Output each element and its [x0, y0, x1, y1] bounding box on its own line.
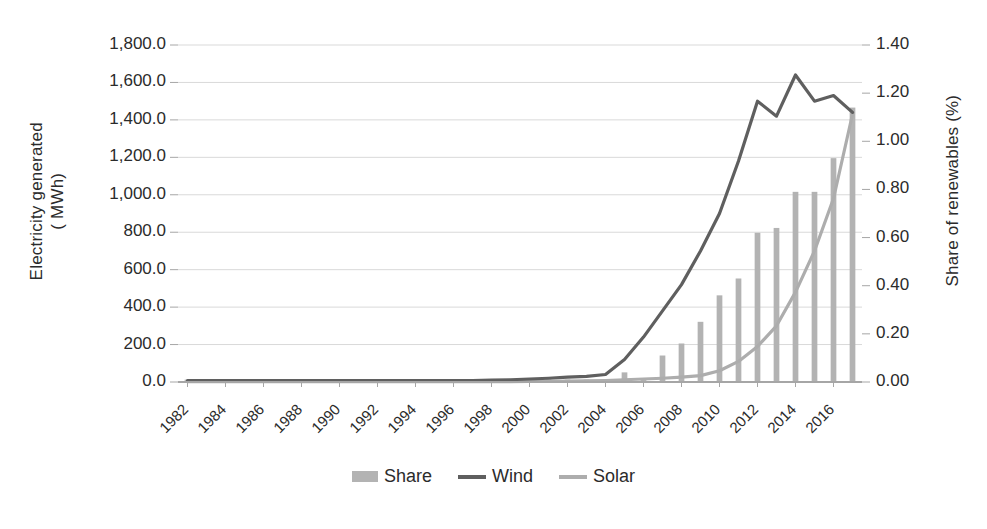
share-bar	[698, 322, 704, 382]
y-tick-label-left: 800.0	[56, 221, 166, 241]
y-tick-label-left: 0.0	[56, 371, 166, 391]
legend-line-swatch-icon	[458, 475, 486, 479]
legend-item[interactable]: Wind	[458, 466, 533, 487]
y-tick-label-left: 1,200.0	[56, 146, 166, 166]
y-tick-label-right: 1.40	[876, 34, 986, 54]
legend-label: Solar	[593, 466, 635, 487]
legend-label: Share	[384, 466, 432, 487]
y-tick-label-left: 1,400.0	[56, 109, 166, 129]
legend-bar-swatch-icon	[352, 471, 378, 482]
solar-line	[188, 114, 853, 381]
y-tick-label-left: 1,600.0	[56, 71, 166, 91]
wind-line	[188, 75, 853, 381]
y-tick-label-left: 1,800.0	[56, 34, 166, 54]
legend-label: Wind	[492, 466, 533, 487]
share-bar	[850, 108, 856, 382]
legend-line-swatch-icon	[559, 475, 587, 479]
y-tick-label-right: 0.40	[876, 275, 986, 295]
share-bar	[755, 233, 761, 382]
legend-item[interactable]: Solar	[559, 466, 635, 487]
y-tick-label-left: 400.0	[56, 296, 166, 316]
share-bar	[736, 278, 742, 382]
y-tick-label-right: 1.20	[876, 82, 986, 102]
y-tick-label-left: 600.0	[56, 259, 166, 279]
y-tick-label-right: 1.00	[876, 130, 986, 150]
share-bar	[774, 228, 780, 382]
y-tick-label-right: 0.20	[876, 323, 986, 343]
share-bar	[812, 192, 818, 382]
y-tick-label-right: 0.60	[876, 227, 986, 247]
legend-item[interactable]: Share	[352, 466, 432, 487]
chart-figure: Electricity generated ( MWh) Share of re…	[0, 0, 987, 529]
y-tick-label-left: 200.0	[56, 334, 166, 354]
chart-legend: ShareWindSolar	[0, 466, 987, 487]
y-tick-label-right: 0.00	[876, 371, 986, 391]
y-tick-label-right: 0.80	[876, 178, 986, 198]
y-tick-label-left: 1,000.0	[56, 184, 166, 204]
